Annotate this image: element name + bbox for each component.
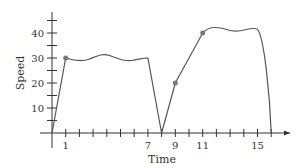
data-point-marker [200, 31, 205, 36]
speed-curve [52, 28, 271, 133]
data-point-markers [63, 31, 205, 86]
data-point-marker [173, 81, 178, 86]
x-tick-label: 11 [196, 140, 209, 151]
speed-time-chart: 179111510203040 Time Speed [0, 0, 304, 168]
x-tick-label: 9 [172, 140, 178, 151]
y-axis-label: Speed [14, 56, 27, 91]
x-tick-label: 7 [145, 140, 151, 151]
y-tick-label: 10 [31, 103, 44, 114]
data-point-marker [63, 56, 68, 61]
chart-canvas: 179111510203040 Time Speed [0, 0, 304, 168]
x-axis-label: Time [148, 153, 176, 166]
y-tick-label: 30 [31, 53, 44, 64]
x-tick-label: 15 [251, 140, 264, 151]
x-tick-label: 1 [63, 140, 69, 151]
y-tick-label: 40 [31, 28, 44, 39]
y-tick-label: 20 [31, 78, 44, 89]
